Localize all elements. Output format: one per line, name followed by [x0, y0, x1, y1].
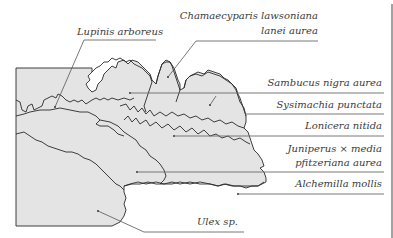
label-alchemilla: Alchemilla mollis	[294, 178, 382, 189]
label-juniperus-line1: Juniperus × media	[286, 143, 382, 154]
planting-diagram: Lupinis arboreus Chamaecyparis lawsonian…	[0, 0, 393, 238]
label-sysimachia: Sysimachia punctata	[277, 99, 383, 110]
chamaecyparis-leader	[168, 41, 196, 77]
label-lonicera: Lonicera nitida	[304, 120, 382, 131]
label-juniperus-line2: pfitzeriana aurea	[295, 157, 382, 168]
label-ulex: Ulex sp.	[197, 216, 238, 227]
label-sambucus: Sambucus nigra aurea	[267, 77, 382, 88]
label-chamaecyparis-line2: lanei aurea	[261, 25, 318, 36]
label-chamaecyparis-line1: Chamaecyparis lawsoniana	[180, 10, 318, 21]
bed-area	[16, 60, 266, 226]
label-lupinus: Lupinis arboreus	[76, 26, 163, 37]
